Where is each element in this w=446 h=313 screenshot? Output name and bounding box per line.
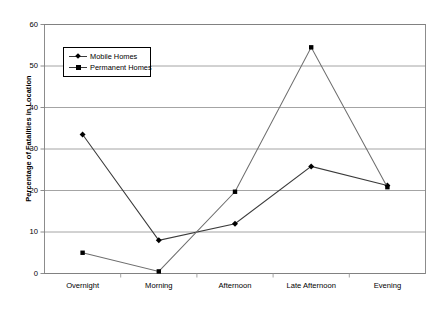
legend-label-permanent-homes: Permanent Homes: [88, 63, 152, 72]
x-axis-tick-label: Evening: [374, 281, 401, 290]
diamond-marker-icon: [68, 51, 88, 62]
x-axis-tick-label: Overnight: [66, 281, 99, 290]
data-point: [80, 251, 84, 255]
data-point: [385, 185, 389, 189]
data-point: [233, 190, 237, 194]
chart-legend: Mobile Homes Permanent Homes: [63, 47, 151, 77]
legend-label-mobile-homes: Mobile Homes: [88, 52, 137, 61]
legend-item-mobile-homes: Mobile Homes: [68, 51, 150, 62]
legend-item-permanent-homes: Permanent Homes: [68, 62, 150, 73]
line-chart: Percentage of Fatalities in Location 010…: [0, 0, 446, 313]
x-axis-tick-label: Late Afternoon: [286, 281, 335, 290]
square-marker-icon: [68, 62, 88, 73]
x-axis-tick-label: Afternoon: [219, 281, 252, 290]
data-point: [157, 269, 161, 273]
data-point: [309, 45, 313, 49]
x-axis-tick-label: Morning: [145, 281, 172, 290]
series-line-permanent-homes: [83, 47, 388, 271]
